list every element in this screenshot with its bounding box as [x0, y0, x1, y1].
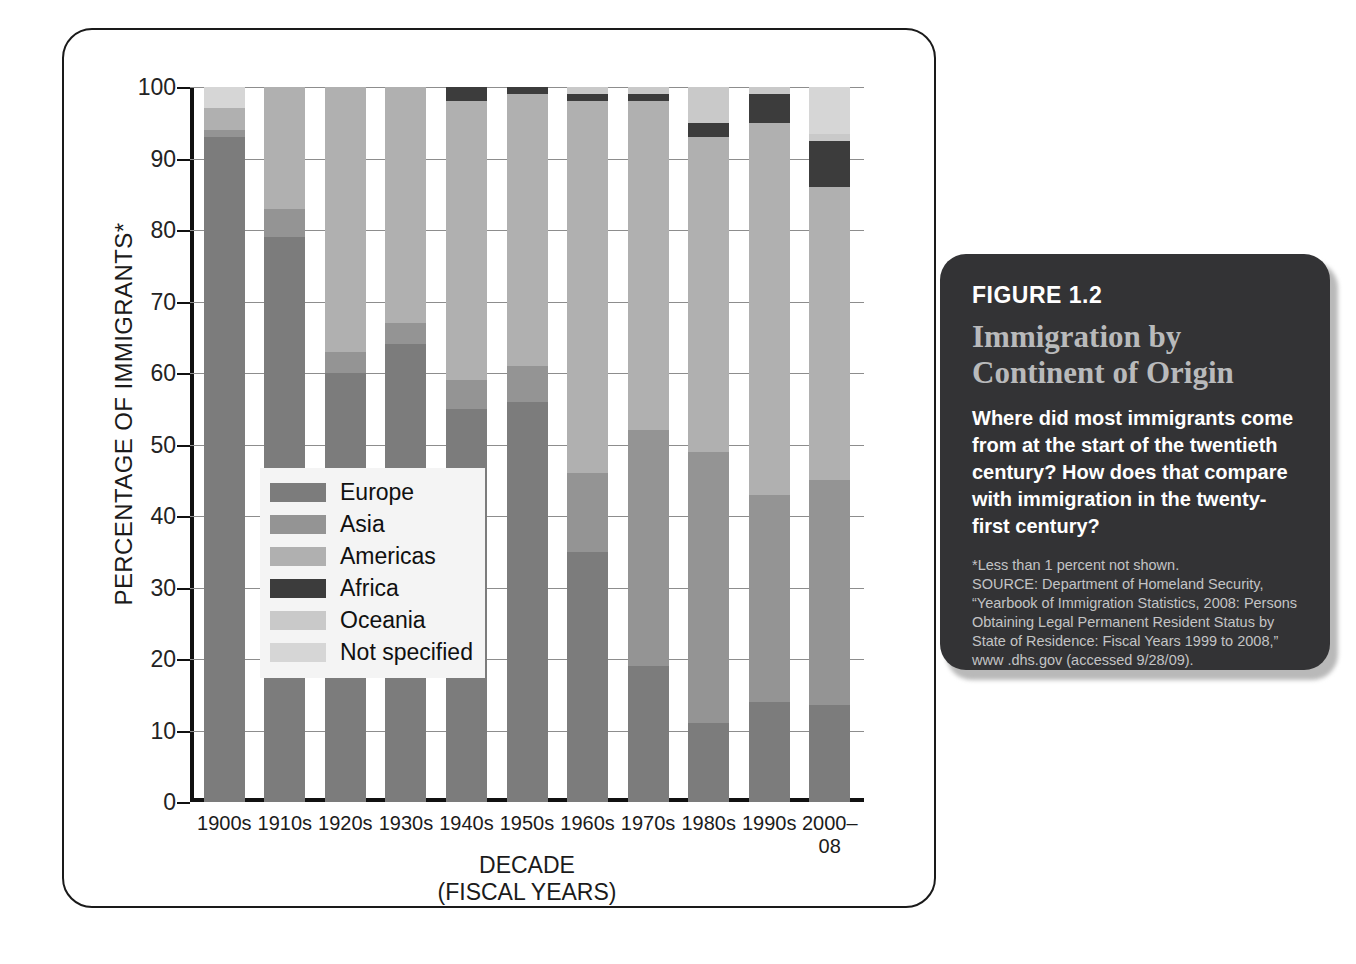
bar-segment-oceania[interactable]	[688, 87, 729, 123]
bar-segment-americas[interactable]	[749, 123, 790, 495]
legend-swatch	[270, 611, 326, 630]
bar-segment-asia[interactable]	[809, 480, 850, 705]
legend-swatch	[270, 643, 326, 662]
bar-segment-americas[interactable]	[385, 87, 426, 323]
bar-segment-europe[interactable]	[507, 402, 548, 802]
legend-item[interactable]: Americas	[270, 540, 473, 572]
figure-title: Immigration by Continent of Origin	[972, 319, 1300, 391]
bar-slot	[376, 87, 437, 802]
bar-segment-europe[interactable]	[628, 666, 669, 802]
bar-segment-americas[interactable]	[567, 101, 608, 473]
bar-slot	[255, 87, 316, 802]
bar-segment-asia[interactable]	[749, 495, 790, 702]
bar-segment-europe[interactable]	[567, 552, 608, 802]
stacked-bar[interactable]	[325, 87, 366, 802]
bar-segment-asia[interactable]	[204, 130, 245, 137]
bar-slot	[557, 87, 618, 802]
bar-segment-asia[interactable]	[385, 323, 426, 344]
bar-segment-oceania[interactable]	[749, 87, 790, 94]
stacked-bar[interactable]	[628, 87, 669, 802]
legend-swatch	[270, 547, 326, 566]
bar-segment-europe[interactable]	[749, 702, 790, 802]
legend-item[interactable]: Africa	[270, 572, 473, 604]
y-axis-tick-label: 70	[96, 289, 176, 316]
legend-label: Europe	[340, 479, 414, 506]
bar-segment-americas[interactable]	[507, 94, 548, 366]
y-axis-tick-label: 100	[96, 74, 176, 101]
y-axis-tick-mark	[177, 588, 190, 590]
stacked-bar[interactable]	[809, 87, 850, 802]
bar-segment-not-specified[interactable]	[809, 87, 850, 133]
bar-segment-asia[interactable]	[628, 430, 669, 666]
legend-item[interactable]: Asia	[270, 508, 473, 540]
bar-segment-oceania[interactable]	[567, 87, 608, 94]
y-axis-tick-label: 90	[96, 146, 176, 173]
bar-segment-americas[interactable]	[446, 101, 487, 380]
bar-slot	[799, 87, 860, 802]
bar-segment-americas[interactable]	[688, 137, 729, 452]
bar-segment-europe[interactable]	[809, 705, 850, 802]
bar-segment-asia[interactable]	[446, 380, 487, 409]
caption-panel: FIGURE 1.2 Immigration by Continent of O…	[940, 254, 1330, 670]
bar-segment-americas[interactable]	[204, 108, 245, 129]
bar-segment-oceania[interactable]	[628, 87, 669, 94]
bar-segment-africa[interactable]	[809, 141, 850, 187]
y-axis-tick-label: 40	[96, 503, 176, 530]
bar-segment-americas[interactable]	[809, 187, 850, 480]
y-axis-tick-mark	[177, 802, 190, 804]
bar-slot	[497, 87, 558, 802]
bar-group	[190, 87, 864, 802]
figure-label: FIGURE 1.2	[972, 282, 1300, 309]
stacked-bar[interactable]	[688, 87, 729, 802]
bar-segment-africa[interactable]	[688, 123, 729, 137]
bar-segment-africa[interactable]	[628, 94, 669, 101]
y-axis-tick-mark	[177, 373, 190, 375]
chart-legend: EuropeAsiaAmericasAfricaOceaniaNot speci…	[260, 468, 485, 678]
bar-segment-asia[interactable]	[264, 209, 305, 238]
legend-item[interactable]: Europe	[270, 476, 473, 508]
stacked-bar[interactable]	[264, 87, 305, 802]
bar-segment-not-specified[interactable]	[204, 87, 245, 108]
chart-card: PERCENTAGE OF IMMIGRANTS* 10090807060504…	[62, 28, 936, 908]
bar-segment-europe[interactable]	[204, 137, 245, 802]
bar-segment-africa[interactable]	[567, 94, 608, 101]
legend-swatch	[270, 483, 326, 502]
y-axis-tick-mark	[177, 659, 190, 661]
bar-segment-europe[interactable]	[688, 723, 729, 802]
bar-segment-asia[interactable]	[567, 473, 608, 552]
bar-segment-asia[interactable]	[325, 352, 366, 373]
y-axis-tick-label: 10	[96, 718, 176, 745]
legend-label: Not specified	[340, 639, 473, 666]
figure-footnote: *Less than 1 percent not shown.	[972, 556, 1300, 575]
stacked-bar[interactable]	[204, 87, 245, 802]
stacked-bar[interactable]	[385, 87, 426, 802]
bar-segment-africa[interactable]	[749, 94, 790, 123]
bar-segment-africa[interactable]	[507, 87, 548, 94]
bar-segment-americas[interactable]	[264, 87, 305, 209]
figure-question: Where did most immigrants come from at t…	[972, 405, 1300, 540]
legend-label: Africa	[340, 575, 399, 602]
bar-segment-asia[interactable]	[507, 366, 548, 402]
stacked-bar[interactable]	[749, 87, 790, 802]
legend-label: Asia	[340, 511, 385, 538]
bar-segment-americas[interactable]	[325, 87, 366, 352]
legend-item[interactable]: Oceania	[270, 604, 473, 636]
bar-slot	[678, 87, 739, 802]
bar-segment-oceania[interactable]	[809, 134, 850, 141]
x-axis-title-line1: DECADE	[190, 852, 864, 879]
bar-segment-africa[interactable]	[446, 87, 487, 101]
stacked-bar[interactable]	[446, 87, 487, 802]
stacked-bar[interactable]	[567, 87, 608, 802]
y-axis-tick-mark	[177, 445, 190, 447]
y-axis-tick-label: 0	[96, 789, 176, 816]
figure-root: PERCENTAGE OF IMMIGRANTS* 10090807060504…	[0, 0, 1356, 964]
bar-slot	[436, 87, 497, 802]
bar-slot	[315, 87, 376, 802]
y-axis-tick-mark	[177, 87, 190, 89]
legend-item[interactable]: Not specified	[270, 636, 473, 668]
bar-segment-americas[interactable]	[628, 101, 669, 430]
gridline	[190, 802, 864, 803]
bar-segment-asia[interactable]	[688, 452, 729, 724]
legend-label: Oceania	[340, 607, 426, 634]
stacked-bar[interactable]	[507, 87, 548, 802]
